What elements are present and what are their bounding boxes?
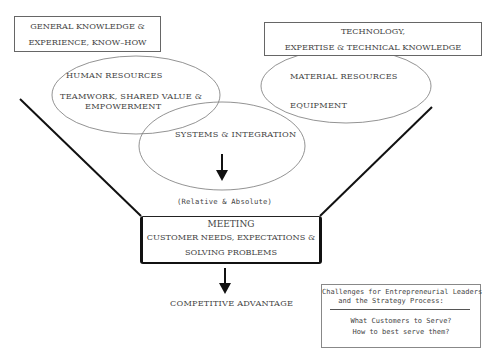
systems-integration-label: SYSTEMS & INTEGRATION — [175, 130, 296, 139]
challenges-box: Challenges for Entrepreneurial Leaders a… — [321, 284, 481, 348]
knowledge-line-1: GENERAL KNOWLEDGE & — [15, 21, 160, 31]
technology-line-2: EXPERTISE & TECHNICAL KNOWLEDGE — [265, 42, 481, 52]
human-resources-title: HUMAN RESOURCES — [66, 71, 162, 80]
material-resources-ellipse — [261, 49, 431, 123]
arrow-down-icon — [216, 170, 228, 181]
general-knowledge-box: GENERAL KNOWLEDGE & EXPERIENCE, KNOW–HOW — [14, 16, 161, 52]
meeting-line-2: CUSTOMER NEEDS, EXPECTATIONS & — [143, 232, 319, 242]
teamwork-label: TEAMWORK, SHARED VALUE & — [60, 92, 202, 101]
meeting-line-3: SOLVING PROBLEMS — [143, 247, 319, 257]
question-1: What Customers to Serve? — [322, 317, 480, 325]
technology-line-1: TECHNOLOGY, — [265, 26, 481, 36]
challenges-title-1: Challenges for Entrepreneurial Leaders — [322, 288, 480, 296]
funnel-right-line — [320, 107, 432, 216]
empowerment-label: EMPOWERMENT — [85, 102, 161, 111]
knowledge-line-2: EXPERIENCE, KNOW–HOW — [15, 37, 160, 47]
challenges-title-2: and the Strategy Process: — [302, 297, 480, 305]
meeting-customer-needs-box: MEETING CUSTOMER NEEDS, EXPECTATIONS & S… — [140, 216, 322, 264]
competitive-advantage-label: COMPETITIVE ADVANTAGE — [170, 299, 293, 308]
equipment-label: EQUIPMENT — [290, 101, 347, 110]
material-resources-title: MATERIAL RESOURCES — [290, 72, 398, 81]
meeting-title: MEETING — [143, 219, 319, 229]
challenges-divider — [330, 309, 470, 310]
question-2: How to best serve them? — [322, 328, 480, 336]
technology-box: TECHNOLOGY, EXPERTISE & TECHNICAL KNOWLE… — [264, 22, 482, 56]
arrow-down-icon — [219, 283, 231, 294]
funnel-left-line — [20, 99, 141, 216]
relative-absolute-label: (Relative & Absolute) — [177, 198, 272, 206]
